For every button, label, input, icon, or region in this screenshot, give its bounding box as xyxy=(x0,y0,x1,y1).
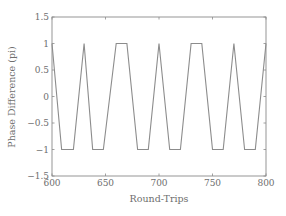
y-tick-label: 1 xyxy=(43,39,49,49)
y-tick-label: −0.5 xyxy=(27,118,49,128)
x-tick-label: 650 xyxy=(97,178,114,188)
y-tick-label: −1 xyxy=(36,145,49,155)
x-tick-label: 800 xyxy=(257,178,274,188)
y-axis-label: Phase Difference (pi) xyxy=(6,46,17,148)
y-tick-label: −1.5 xyxy=(27,171,49,181)
x-axis-label: Round-Trips xyxy=(130,193,189,204)
axis-ticks xyxy=(52,17,266,176)
x-tick-label: 700 xyxy=(150,178,167,188)
tick-labels: 600650700750800−1.5−1−0.500.511.5 xyxy=(27,12,275,188)
x-tick-label: 750 xyxy=(204,178,221,188)
plot-frame xyxy=(52,17,266,176)
chart: 600650700750800−1.5−1−0.500.511.5 Round-… xyxy=(0,0,286,216)
y-tick-label: 0 xyxy=(43,92,49,102)
y-tick-label: 0.5 xyxy=(35,65,50,75)
y-tick-label: 1.5 xyxy=(35,12,50,22)
series-line-0 xyxy=(52,44,266,150)
plot-area xyxy=(52,17,266,176)
